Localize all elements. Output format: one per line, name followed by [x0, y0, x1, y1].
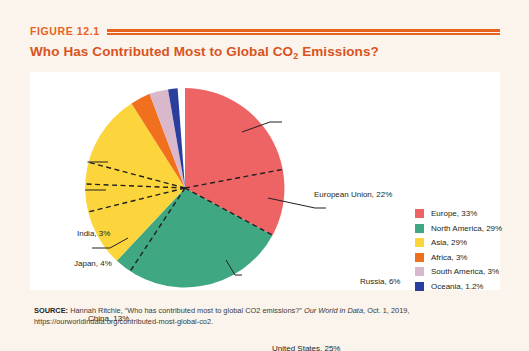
callout-russia: Russia, 6% — [360, 277, 400, 286]
legend-swatch-asia — [415, 238, 424, 247]
legend-swatch-africa — [415, 253, 424, 262]
source-text-part1: Hannah Ritchie, “Who has contributed mos… — [68, 306, 304, 315]
source-note: SOURCE: Hannah Ritchie, “Who has contrib… — [34, 305, 494, 328]
chart-title-tail: Emissions? — [298, 44, 379, 59]
legend-swatch-oceania — [415, 282, 424, 291]
legend-swatch-europe — [415, 209, 424, 218]
header-rule-thin — [107, 33, 500, 35]
legend-label-oceania: Oceania, 1.2% — [431, 282, 483, 291]
header-rule-group — [107, 28, 500, 35]
legend-label-north-america: North America, 29% — [431, 224, 502, 233]
callout-india: India, 3% — [77, 229, 110, 238]
legend-item-south-america: South America, 3% — [415, 267, 502, 276]
legend-swatch-south-america — [415, 267, 424, 276]
figure-number-label: FIGURE 12.1 — [30, 25, 100, 37]
legend-item-europe: Europe, 33% — [415, 209, 502, 218]
header-rule-thick — [107, 29, 500, 32]
legend-item-north-america: North America, 29% — [415, 224, 502, 233]
chart-title-subscript: 2 — [293, 51, 298, 61]
figure-card: FIGURE 12.1 Who Has Contributed Most to … — [0, 0, 529, 351]
legend-label-africa: Africa, 3% — [431, 253, 467, 262]
legend-item-africa: Africa, 3% — [415, 253, 502, 262]
callout-japan: Japan, 4% — [74, 259, 112, 268]
figure-label-row: FIGURE 12.1 — [30, 24, 500, 38]
legend-item-oceania: Oceania, 1.2% — [415, 282, 502, 291]
chart-title: Who Has Contributed Most to Global CO2 E… — [30, 44, 490, 59]
chart-plot-panel: European Union, 22% Russia, 6% United St… — [30, 72, 500, 290]
source-publication: Our World in Data — [304, 306, 363, 315]
legend-label-europe: Europe, 33% — [431, 209, 477, 218]
legend-swatch-north-america — [415, 224, 424, 233]
chart-legend: Europe, 33% North America, 29% Asia, 29%… — [415, 209, 502, 291]
legend-label-asia: Asia, 29% — [431, 238, 467, 247]
chart-title-main: Who Has Contributed Most to Global CO — [30, 44, 293, 59]
legend-item-asia: Asia, 29% — [415, 238, 502, 247]
callout-united-states: United States, 25% — [272, 344, 340, 351]
source-label: SOURCE: — [34, 306, 68, 315]
legend-label-south-america: South America, 3% — [431, 267, 499, 276]
callout-european-union: European Union, 22% — [314, 190, 392, 199]
